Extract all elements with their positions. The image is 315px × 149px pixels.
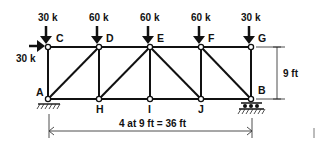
load-label-C: 30 k [38,12,58,23]
arrow-down-icon [142,26,154,44]
node-label-F: F [208,32,215,44]
node-G [248,44,253,49]
member-EJ [150,47,201,99]
load-label-D: 60 k [89,12,109,23]
height-label: 9 ft [283,68,299,79]
truss-diagram: 30 k 60 k 60 k 60 k 30 k 30 k C D E F G … [0,0,315,149]
node-label-E: E [157,32,164,44]
span-label: 4 at 9 ft = 36 ft [119,118,187,129]
arrow-down-icon [243,26,255,44]
member-HE [99,47,150,99]
node-J [198,96,203,101]
node-label-J: J [198,103,204,115]
load-label-E: 60 k [140,12,160,23]
load-label-horizontal: 30 k [16,53,36,64]
load-label-G: 30 k [241,12,261,23]
node-H [96,96,101,101]
pin-support-A [37,104,60,109]
arrow-right-icon [29,40,45,52]
node-label-C: C [56,32,64,44]
node-label-H: H [96,103,104,115]
arrow-down-icon [91,26,103,44]
node-label-G: G [258,32,266,44]
node-B [248,96,253,101]
node-label-B: B [258,84,266,96]
node-label-D: D [106,32,114,44]
node-E [147,44,152,49]
node-I [147,96,152,101]
arrow-down-icon [193,26,205,44]
load-label-F: 60 k [191,12,211,23]
member-AD [48,47,99,99]
node-label-A: A [36,86,44,98]
arrow-down-icon [40,26,52,44]
truss-members [48,47,251,99]
node-A [45,96,50,101]
member-FB [201,47,251,99]
roller-support-B [238,103,265,114]
node-D [96,44,101,49]
node-C [45,44,50,49]
node-label-I: I [148,103,151,115]
node-F [198,44,203,49]
